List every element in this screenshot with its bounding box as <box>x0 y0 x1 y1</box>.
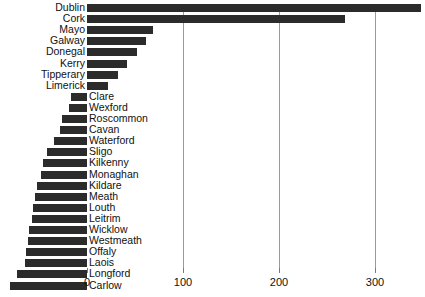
table-row: Kilkenny <box>0 158 425 169</box>
x-tick <box>183 268 184 273</box>
x-tick <box>375 268 376 273</box>
table-row: Waterford <box>0 136 425 147</box>
table-row: Limerick <box>0 81 425 92</box>
bar[interactable] <box>87 48 137 56</box>
bar[interactable] <box>35 193 87 201</box>
bar-label: Limerick <box>0 80 85 92</box>
x-tick-label: 100 <box>163 276 203 288</box>
table-row: Cavan <box>0 125 425 136</box>
bar[interactable] <box>87 26 153 34</box>
plot-area: DublinCorkMayoGalwayDonegalKerryTipperar… <box>0 0 425 268</box>
bar[interactable] <box>87 60 127 68</box>
table-row: Sligo <box>0 147 425 158</box>
bar[interactable] <box>54 137 87 145</box>
bar[interactable] <box>29 226 87 234</box>
table-row: Westmeath <box>0 236 425 247</box>
x-axis: 0100200300 <box>0 268 425 297</box>
table-row: Wexford <box>0 103 425 114</box>
bar[interactable] <box>47 148 87 156</box>
bar[interactable] <box>33 204 87 212</box>
table-row: Wicklow <box>0 225 425 236</box>
x-tick-label: 200 <box>259 276 299 288</box>
bar[interactable] <box>87 71 118 79</box>
county-bar-chart: DublinCorkMayoGalwayDonegalKerryTipperar… <box>0 0 425 297</box>
x-tick-label: 0 <box>67 276 107 288</box>
table-row: Kildare <box>0 181 425 192</box>
table-row: Meath <box>0 192 425 203</box>
bar[interactable] <box>87 37 146 45</box>
bar[interactable] <box>26 248 87 256</box>
bar[interactable] <box>87 15 345 23</box>
bar[interactable] <box>71 93 87 101</box>
bar[interactable] <box>28 237 87 245</box>
bar[interactable] <box>43 159 87 167</box>
bar[interactable] <box>41 171 87 179</box>
table-row: Offaly <box>0 247 425 258</box>
bar[interactable] <box>25 259 87 267</box>
table-row: Monaghan <box>0 170 425 181</box>
bar[interactable] <box>87 4 421 12</box>
bar[interactable] <box>60 126 87 134</box>
table-row: Clare <box>0 92 425 103</box>
bar[interactable] <box>62 115 87 123</box>
bar[interactable] <box>87 82 108 90</box>
x-tick-label: 300 <box>355 276 395 288</box>
table-row: Louth <box>0 203 425 214</box>
x-tick <box>279 268 280 273</box>
table-row: Roscommon <box>0 114 425 125</box>
bar[interactable] <box>37 182 87 190</box>
x-tick <box>87 268 88 273</box>
table-row: Leitrim <box>0 214 425 225</box>
bar[interactable] <box>69 104 87 112</box>
bar[interactable] <box>32 215 87 223</box>
